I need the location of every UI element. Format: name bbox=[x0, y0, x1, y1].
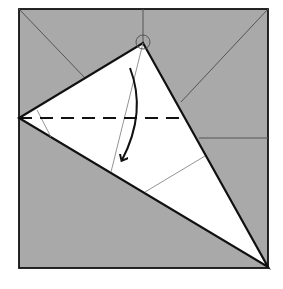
origami-diagram bbox=[0, 0, 283, 289]
